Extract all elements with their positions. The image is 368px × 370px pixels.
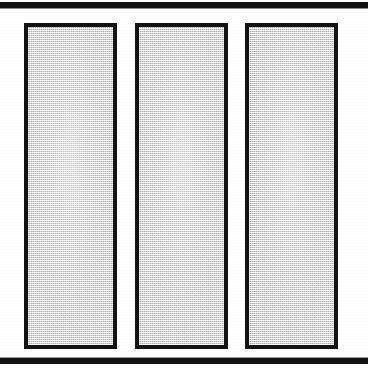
top-rule xyxy=(0,2,368,8)
panel-row xyxy=(24,23,338,349)
bottom-rule xyxy=(0,358,368,364)
panel-center xyxy=(135,23,228,349)
panel-right xyxy=(245,23,338,349)
figure-sheet xyxy=(0,0,368,370)
panel-left xyxy=(24,23,117,349)
